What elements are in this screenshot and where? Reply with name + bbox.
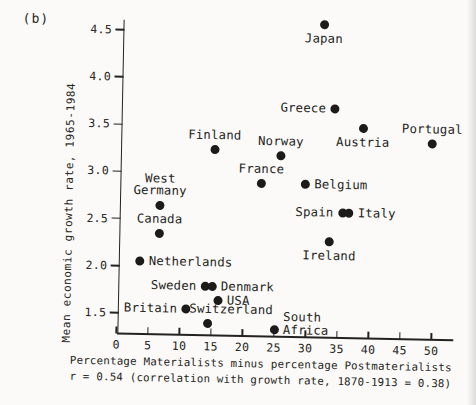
x-tick-label: 20	[227, 341, 257, 354]
x-tick-label: 0	[101, 338, 131, 351]
label-sweden: Sweden	[151, 279, 197, 292]
label-belgium: Belgium	[314, 178, 367, 192]
y-tick-label: 2.5	[66, 211, 108, 224]
label-ireland: Ireland	[302, 249, 355, 263]
point-belgium	[301, 180, 310, 189]
point-italy	[344, 209, 353, 218]
point-portugal	[427, 140, 436, 149]
x-tick-mark	[242, 329, 244, 336]
label-france: France	[238, 162, 284, 175]
y-tick-label: 4.5	[70, 23, 112, 36]
label-denmark: Denmark	[221, 280, 274, 294]
x-tick-mark	[431, 333, 433, 340]
label-britain: Britain	[124, 302, 177, 316]
scanned-figure: (b) Mean economic growth rate, 1965-1984…	[0, 0, 476, 405]
x-tick-label: 50	[416, 345, 446, 358]
label-canada: Canada	[137, 212, 183, 225]
label-norway: Norway	[258, 135, 304, 148]
y-tick-mark	[115, 29, 124, 31]
point-austria	[358, 124, 367, 133]
point-netherlands	[135, 257, 144, 266]
y-tick-mark	[110, 312, 119, 314]
label-west-germany: West Germany	[133, 171, 187, 197]
y-tick-mark	[112, 217, 121, 219]
label-netherlands: Netherlands	[149, 255, 233, 269]
x-tick-label: 25	[258, 341, 288, 354]
point-canada	[155, 229, 164, 238]
y-tick-label: 2.0	[65, 258, 107, 271]
y-tick-label: 3.5	[68, 117, 110, 130]
point-ireland	[325, 237, 334, 246]
label-portugal: Portugal	[402, 123, 463, 137]
label-south-africa: South Africa	[283, 311, 329, 337]
label-italy: Italy	[358, 207, 396, 220]
x-tick-mark	[116, 327, 118, 334]
x-tick-label: 10	[164, 340, 194, 353]
x-tick-mark	[147, 327, 149, 334]
x-tick-label: 35	[321, 343, 351, 356]
x-tick-mark	[210, 328, 212, 335]
x-tick-mark	[368, 332, 370, 339]
point-france	[257, 179, 266, 188]
x-tick-mark	[399, 332, 401, 339]
label-japan: Japan	[305, 32, 343, 45]
label-switzerland: Switzerland	[189, 303, 273, 317]
point-west-germany	[155, 200, 164, 209]
x-tick-label: 40	[353, 343, 383, 356]
point-finland	[210, 145, 219, 154]
point-japan	[320, 20, 329, 29]
y-tick-mark	[114, 123, 123, 125]
label-greece: Greece	[280, 102, 326, 115]
x-tick-label: 15	[195, 340, 225, 353]
label-austria: Austria	[336, 136, 389, 150]
y-tick-label: 4.0	[69, 70, 111, 83]
x-tick-label: 30	[290, 342, 320, 355]
point-greece	[330, 105, 339, 114]
y-tick-mark	[114, 76, 123, 78]
label-spain: Spain	[295, 206, 333, 219]
y-tick-label: 1.5	[64, 306, 106, 319]
x-tick-mark	[179, 328, 181, 335]
y-tick-label: 3.0	[67, 164, 109, 177]
y-axis-line	[117, 20, 125, 335]
x-tick-label: 45	[384, 344, 414, 357]
y-tick-mark	[111, 265, 120, 267]
y-tick-mark	[113, 170, 122, 172]
scatter-plot-area: 051015202530354045504.54.03.53.02.52.01.…	[0, 0, 476, 405]
point-norway	[276, 151, 285, 160]
point-south-africa	[269, 325, 278, 334]
x-tick-label: 5	[132, 339, 162, 352]
scan-edge-shadow	[467, 0, 476, 405]
point-denmark	[207, 282, 216, 291]
point-switzerland	[203, 319, 212, 328]
label-finland: Finland	[188, 128, 241, 142]
x-tick-mark	[336, 331, 338, 338]
